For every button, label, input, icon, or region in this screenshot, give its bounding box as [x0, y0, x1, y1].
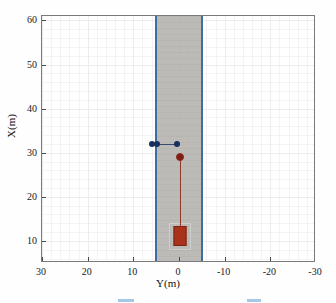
x-axis-tick-label: 20: [82, 266, 92, 277]
lane-texture-stripe: [156, 34, 202, 35]
x-axis-label: Y(m): [0, 277, 336, 289]
y-axis-tick-label: 40: [15, 102, 37, 113]
legend-swatch-right: [247, 299, 261, 302]
grid-line-vertical: [133, 16, 134, 261]
track-history-line: [180, 157, 181, 227]
lane-texture-stripe: [156, 106, 202, 107]
data-point-marker: [176, 153, 184, 161]
lane-left-boundary-line: [155, 16, 157, 261]
y-axis-tick: [42, 153, 46, 154]
lane-texture-stripe: [156, 82, 202, 83]
lane-texture-stripe: [156, 88, 202, 89]
y-axis-tick: [42, 241, 46, 242]
lane-texture-stripe: [156, 100, 202, 101]
y-axis-tick-label: 10: [15, 234, 37, 245]
lane-texture-stripe: [156, 124, 202, 125]
lane-texture-stripe: [156, 46, 202, 47]
lane-right-boundary-line: [201, 16, 203, 261]
lane-texture-stripe: [156, 40, 202, 41]
x-axis-tick-label: -20: [263, 266, 276, 277]
lane-texture-stripe: [156, 76, 202, 77]
y-axis-tick: [42, 197, 46, 198]
plot-area: [41, 15, 315, 262]
y-axis-tick: [42, 65, 46, 66]
lane-texture-stripe: [156, 136, 202, 137]
y-axis-tick-label: 20: [15, 190, 37, 201]
y-axis-tick-label: 50: [15, 58, 37, 69]
y-axis-label: X(m): [5, 96, 17, 156]
grid-line-vertical: [225, 16, 226, 261]
lane-texture-stripe: [156, 112, 202, 113]
x-axis-tick-label: 30: [36, 266, 46, 277]
data-point-marker: [154, 141, 160, 147]
lane-texture-stripe: [156, 70, 202, 71]
grid-line-vertical: [270, 16, 271, 261]
lane-texture-stripe: [156, 250, 202, 251]
figure-canvas: 3020100-10-20-30 102030405060 Y(m) X(m): [0, 0, 336, 303]
lane-texture-stripe: [156, 64, 202, 65]
lane-texture-stripe: [156, 130, 202, 131]
y-axis-tick-label: 60: [15, 14, 37, 25]
grid-line-vertical: [88, 16, 89, 261]
y-axis-tick-label: 30: [15, 146, 37, 157]
x-axis-tick: [88, 257, 89, 261]
lane-texture-stripe: [156, 148, 202, 149]
y-axis-tick: [42, 109, 46, 110]
grid-line-vertical: [42, 16, 43, 261]
x-axis-tick-label: 0: [176, 266, 181, 277]
lane-texture-stripe: [156, 28, 202, 29]
legend-swatch-left: [118, 299, 134, 302]
lane-texture-stripe: [156, 118, 202, 119]
lane-texture-stripe: [156, 94, 202, 95]
lane-texture-stripe: [156, 16, 202, 17]
x-axis-tick: [225, 257, 226, 261]
x-axis-tick: [133, 257, 134, 261]
cropped-legend-strip: [0, 297, 336, 303]
x-axis-tick: [270, 257, 271, 261]
x-axis-tick-label: -10: [217, 266, 230, 277]
x-axis-tick-label: 10: [127, 266, 137, 277]
data-point-marker: [174, 141, 180, 147]
x-axis-tick: [179, 257, 180, 261]
lane-texture-stripe: [156, 52, 202, 53]
lane-texture-stripe: [156, 22, 202, 23]
x-axis-tick-label: -30: [308, 266, 321, 277]
ego-vehicle-bounding-box: [169, 223, 191, 250]
y-axis-tick: [42, 20, 46, 21]
lane-texture-stripe: [156, 58, 202, 59]
x-axis-tick: [42, 257, 43, 261]
